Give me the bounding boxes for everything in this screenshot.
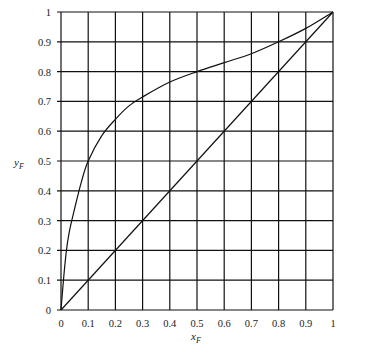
y-tick-label: 0.7 <box>38 96 51 107</box>
y-tick-label: 1 <box>46 7 51 18</box>
y-tick-label: 0 <box>46 305 51 316</box>
chart-canvas: 00.10.20.30.40.50.60.70.80.91 00.10.20.3… <box>0 0 369 364</box>
y-tick-label: 0.3 <box>38 216 51 227</box>
y-tick-label: 0.8 <box>38 67 51 78</box>
x-tick-label: 1 <box>330 318 335 329</box>
x-tick-label: 0.9 <box>299 318 312 329</box>
y-tick-label: 0.1 <box>38 275 51 286</box>
y-axis-ticks: 00.10.20.30.40.50.60.70.80.91 <box>38 7 52 316</box>
x-tick-label: 0.6 <box>218 318 231 329</box>
x-tick-label: 0.2 <box>109 318 122 329</box>
y-tick-label: 0.4 <box>38 186 52 197</box>
x-tick-label: 0.3 <box>136 318 149 329</box>
x-tick-label: 0.5 <box>190 318 203 329</box>
x-tick-label: 0.4 <box>163 318 177 329</box>
y-axis-label: yF <box>13 156 24 171</box>
y-tick-label: 0.6 <box>38 126 51 137</box>
x-tick-label: 0.1 <box>82 318 95 329</box>
y-tick-label: 0.5 <box>38 156 51 167</box>
y-tick-label: 0.2 <box>38 245 51 256</box>
x-axis-ticks: 00.10.20.30.40.50.60.70.80.91 <box>58 318 335 329</box>
x-axis-label: xF <box>190 330 201 345</box>
x-tick-label: 0 <box>58 318 63 329</box>
y-tick-label: 0.9 <box>38 37 51 48</box>
x-tick-label: 0.7 <box>245 318 258 329</box>
x-tick-label: 0.8 <box>272 318 285 329</box>
